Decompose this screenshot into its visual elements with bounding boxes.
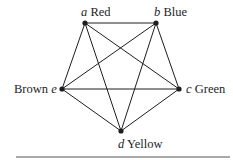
node-a — [82, 20, 87, 25]
label-a: a Red — [81, 5, 111, 19]
node-e — [59, 86, 64, 91]
edge-a-d — [85, 23, 121, 131]
graph-diagram: a Red b Blue c Green d Yellow Brown e — [0, 0, 233, 160]
edge-c-d — [121, 89, 179, 131]
label-b: b Blue — [154, 5, 187, 19]
edges — [62, 23, 179, 131]
edge-a-e — [62, 23, 85, 89]
node-b — [153, 20, 158, 25]
edge-d-e — [62, 89, 121, 131]
edge-b-d — [121, 23, 156, 131]
label-c: c Green — [186, 82, 226, 96]
edge-b-c — [156, 23, 179, 89]
edge-b-e — [62, 23, 156, 89]
node-c — [176, 86, 181, 91]
label-e: Brown e — [14, 82, 57, 96]
nodes — [59, 20, 181, 133]
edge-a-c — [85, 23, 179, 89]
label-d: d Yellow — [118, 137, 162, 151]
node-d — [118, 128, 123, 133]
